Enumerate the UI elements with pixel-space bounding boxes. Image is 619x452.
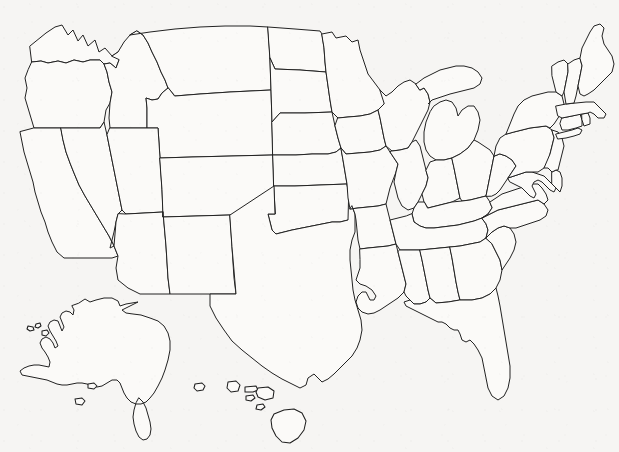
state-outline-FL [404,288,510,400]
alaska-island-kodiak-1 [75,398,85,405]
state-outline-AZ [114,212,170,294]
state-outline-OR [25,60,112,128]
hawaii-island-kauai [194,383,205,391]
state-outline-ND [268,27,326,72]
state-outline-WI [378,80,430,151]
alaska-island-small [27,326,34,331]
hawaii-island-lanai [246,395,255,401]
alaska-inset-group [20,298,170,440]
alaska-island-aleutian-1 [42,330,49,336]
hawaii-inset-group [194,381,306,443]
state-outline-MN [322,32,386,118]
hawaii-island-maui [256,387,274,400]
us-outline-map [0,0,619,452]
state-outline-AK [20,298,170,440]
state-outline-NE [272,112,341,155]
state-outline-NM [163,212,236,294]
hawaii-island-big-island [271,409,306,443]
us-map-svg [0,0,619,452]
state-outline-ME [578,24,614,96]
state-outline-WY [146,88,273,158]
alaska-island-aleutian-2 [35,323,41,328]
state-outline-IL [390,140,428,210]
state-outline-AR [350,204,396,249]
state-outline-MO [341,146,398,209]
hawaii-island-kahoolawe [256,404,265,410]
state-outline-RI [582,113,590,126]
hawaii-island-oahu [227,381,240,392]
